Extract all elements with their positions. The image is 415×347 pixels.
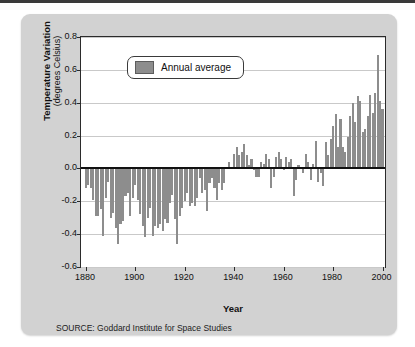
legend-label-annual-average: Annual average xyxy=(161,62,231,73)
gridline xyxy=(81,201,385,202)
y-tick-label: -0.4 xyxy=(61,228,77,238)
zero-baseline xyxy=(81,167,385,169)
gridline xyxy=(81,267,385,268)
x-tick-mark xyxy=(135,267,136,271)
x-tick-label: 1880 xyxy=(75,272,95,282)
y-axis-tick-labels: 0.80.60.40.20.0-0.2-0.4-0.6 xyxy=(43,36,77,268)
y-tick-label: -0.2 xyxy=(61,195,77,205)
x-tick-mark xyxy=(185,267,186,271)
x-tick-mark xyxy=(284,267,285,271)
x-tick-mark xyxy=(383,267,384,271)
x-tick-label: 1900 xyxy=(124,272,144,282)
source-note: SOURCE: Goddard Institute for Space Stud… xyxy=(56,323,232,333)
x-tick-label: 1980 xyxy=(322,272,342,282)
bar xyxy=(295,168,297,180)
gridline xyxy=(81,234,385,235)
y-tick-mark xyxy=(77,37,81,38)
bar xyxy=(258,168,260,176)
y-tick-label: -0.6 xyxy=(61,261,77,271)
bar xyxy=(310,168,312,180)
y-tick-mark xyxy=(77,201,81,202)
chart-legend: Annual average xyxy=(127,56,244,79)
gridline xyxy=(81,37,385,38)
chart-panel: Temperature Variation (degrees Celsius) … xyxy=(21,14,397,335)
y-tick-label: 0.0 xyxy=(64,162,77,172)
y-tick-label: 0.2 xyxy=(64,130,77,140)
bar xyxy=(315,141,317,169)
y-tick-label: 0.4 xyxy=(64,97,77,107)
bar xyxy=(273,168,275,176)
x-tick-mark xyxy=(234,267,235,271)
bar xyxy=(381,109,383,168)
x-tick-label: 1940 xyxy=(223,272,243,282)
y-tick-mark xyxy=(77,70,81,71)
y-tick-mark xyxy=(77,267,81,268)
bar xyxy=(322,168,324,186)
x-tick-label: 1960 xyxy=(273,272,293,282)
y-tick-mark xyxy=(77,136,81,137)
y-tick-mark xyxy=(77,234,81,235)
x-tick-mark xyxy=(86,267,87,271)
x-tick-label: 2000 xyxy=(372,272,392,282)
y-tick-mark xyxy=(77,103,81,104)
x-tick-mark xyxy=(333,267,334,271)
y-tick-label: 0.6 xyxy=(64,64,77,74)
bar xyxy=(223,168,225,183)
x-tick-label: 1920 xyxy=(174,272,194,282)
legend-swatch-annual-average xyxy=(135,61,154,74)
gridline xyxy=(81,103,385,104)
x-axis-title: Year xyxy=(80,303,386,314)
y-tick-label: 0.8 xyxy=(64,31,77,41)
